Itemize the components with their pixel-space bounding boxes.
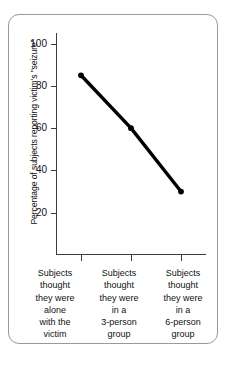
x-tick-mark	[131, 255, 132, 261]
x-category-label-line: thought	[88, 279, 150, 291]
y-tick-label: 100	[30, 38, 47, 49]
y-tick-label: 20	[36, 207, 47, 218]
x-category-label-line: they were	[24, 292, 86, 304]
x-category-label: Subjectsthoughtthey werein a3-persongrou…	[87, 267, 151, 341]
x-category-label-line: they were	[152, 292, 214, 304]
x-category-label-line: group	[88, 328, 150, 340]
data-series-line	[56, 33, 206, 255]
x-category-label-line: thought	[152, 279, 214, 291]
data-point	[178, 189, 184, 195]
x-category-label-line: they were	[88, 292, 150, 304]
plot-area: 10080604020	[56, 33, 206, 255]
x-category-label: Subjectsthoughtthey werein a6-persongrou…	[151, 267, 215, 341]
y-tick-label: 60	[36, 122, 47, 133]
x-category-label-line: 6-person	[152, 316, 214, 328]
x-tick-mark	[181, 255, 182, 261]
x-category-label-line: Subjects	[88, 267, 150, 279]
x-category-label-line: Subjects	[24, 267, 86, 279]
x-category-label-line: victim	[24, 328, 86, 340]
x-category-label: Subjectsthoughtthey werealonewith thevic…	[23, 267, 87, 341]
x-axis-category-labels: Subjectsthoughtthey werealonewith thevic…	[23, 267, 215, 341]
chart-figure: Percentage of subjects reporting victim'…	[8, 14, 218, 344]
x-category-label-line: thought	[24, 279, 86, 291]
x-tick-mark	[81, 255, 82, 261]
x-category-label-line: with the	[24, 316, 86, 328]
y-tick-label: 40	[36, 164, 47, 175]
x-category-label-line: in a	[152, 304, 214, 316]
series-polyline	[81, 75, 181, 191]
data-point	[128, 125, 134, 131]
x-category-label-line: in a	[88, 304, 150, 316]
x-category-label-line: 3-person	[88, 316, 150, 328]
y-tick-label: 80	[36, 80, 47, 91]
x-category-label-line: alone	[24, 304, 86, 316]
x-category-label-line: group	[152, 328, 214, 340]
x-category-label-line: Subjects	[152, 267, 214, 279]
data-point	[78, 72, 84, 78]
